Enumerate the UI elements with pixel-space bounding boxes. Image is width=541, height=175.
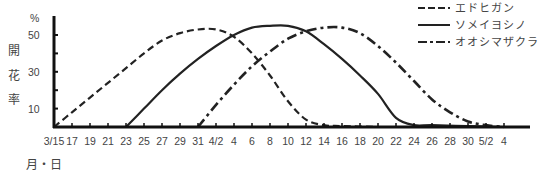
x-tick-label: 4 (501, 135, 507, 147)
x-tick-label: 25 (138, 135, 150, 147)
x-tick-label: 27 (156, 135, 168, 147)
x-tick-label: 4 (231, 135, 237, 147)
x-tick-label: 10 (282, 135, 294, 147)
x-tick-label: 26 (426, 135, 438, 147)
x-tick-label: 18 (354, 135, 366, 147)
x-tick-label: 22 (390, 135, 402, 147)
y-tick-label-10: 10 (28, 103, 40, 115)
x-tick-label: 5/2 (479, 135, 494, 147)
x-tick-label: 28 (444, 135, 456, 147)
x-tick-label: 14 (318, 135, 330, 147)
x-tick-label: 8 (267, 135, 273, 147)
y-unit-label: % (30, 12, 39, 24)
y-title-char-1: 開 (8, 44, 20, 58)
legend-label-someiyoshino: ソメイヨシノ (455, 19, 527, 32)
y-tick-label-30: 30 (28, 66, 40, 78)
x-axis-title: 月・日 (26, 158, 62, 172)
x-tick-label: 19 (84, 135, 96, 147)
y-title-char-3: 率 (8, 92, 20, 107)
x-tick-label: 4/2 (209, 135, 224, 147)
x-tick-label: 6 (249, 135, 255, 147)
bloom-rate-chart: % 開 花 率 50 30 10 3/1517192123252729314/2… (0, 0, 541, 175)
x-tick-label: 31 (192, 135, 204, 147)
x-tick-label: 17 (66, 135, 78, 147)
y-title-char-2: 花 (8, 68, 20, 83)
legend-label-oshimazakura: オオシマザクラ (455, 36, 539, 49)
x-tick-label: 24 (408, 135, 420, 147)
x-tick-label: 29 (174, 135, 186, 147)
legend: エドヒガン ソメイヨシノ オオシマザクラ (418, 2, 539, 49)
x-tick-label: 16 (336, 135, 348, 147)
y-tick-label-50: 50 (28, 29, 40, 41)
x-tick-label: 20 (372, 135, 384, 147)
x-tick-label: 30 (462, 135, 474, 147)
x-tick-label: 21 (102, 135, 114, 147)
plot-series (54, 25, 504, 127)
x-tick-label: 3/15 (44, 135, 65, 147)
x-tick-labels: 3/1517192123252729314/246810121416182022… (44, 135, 507, 147)
legend-label-edohigan: エドヒガン (455, 2, 515, 15)
x-tick-label: 12 (300, 135, 312, 147)
series-line-dashed (54, 29, 378, 127)
x-tick-label: 23 (120, 135, 132, 147)
